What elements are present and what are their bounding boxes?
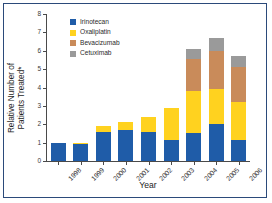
bar-2004[interactable]	[186, 49, 201, 161]
bar-segment-oxaliplatin-2000[interactable]	[96, 126, 111, 131]
bar-segment-irinotecan-2003[interactable]	[164, 140, 179, 161]
x-axis-tick	[194, 161, 195, 165]
legend-item-oxaliplatin[interactable]: Oxaliplatin	[70, 28, 120, 39]
bar-1998[interactable]	[51, 143, 66, 161]
bar-2005[interactable]	[209, 38, 224, 161]
legend-label: Oxaliplatin	[80, 29, 111, 36]
y-axis-tick-label: 8	[37, 11, 41, 18]
figure-border: Relative Number of Patients Treated* 012…	[3, 3, 267, 198]
x-axis-tick	[81, 161, 82, 165]
y-axis-tick-label: 2	[37, 121, 41, 128]
bar-segment-irinotecan-2000[interactable]	[96, 132, 111, 161]
bar-segment-irinotecan-2002[interactable]	[141, 132, 156, 161]
bar-2001[interactable]	[118, 122, 133, 161]
bar-1999[interactable]	[73, 143, 88, 161]
x-axis-tick	[149, 161, 150, 165]
x-axis-tick	[58, 161, 59, 165]
bar-segment-cetuximab-2006[interactable]	[231, 56, 246, 67]
legend-label: Irinotecan	[80, 19, 109, 26]
bar-segment-irinotecan-2001[interactable]	[118, 130, 133, 161]
bar-2000[interactable]	[96, 126, 111, 161]
chart-figure: Relative Number of Patients Treated* 012…	[4, 4, 268, 199]
x-axis-tick	[126, 161, 127, 165]
bar-segment-oxaliplatin-2003[interactable]	[164, 108, 179, 140]
bar-segment-oxaliplatin-1999[interactable]	[73, 143, 88, 145]
bar-segment-cetuximab-2005[interactable]	[209, 38, 224, 51]
legend-label: Bevacizumab	[80, 40, 120, 47]
y-axis-title-line2: Patients Treated*	[17, 67, 26, 130]
y-axis-title: Relative Number of Patients Treated*	[7, 28, 27, 168]
bar-2002[interactable]	[141, 117, 156, 161]
y-axis-tick-label: 6	[37, 48, 41, 55]
y-axis-tick-label: 0	[37, 158, 41, 165]
legend-swatch-cetuximab	[70, 51, 76, 57]
bar-segment-cetuximab-2004[interactable]	[186, 49, 201, 59]
x-axis-tick	[171, 161, 172, 165]
x-axis-title: Year	[46, 180, 250, 190]
y-axis-tick-label: 7	[37, 29, 41, 36]
bar-segment-bevacizumab-2005[interactable]	[209, 51, 224, 90]
bar-2006[interactable]	[231, 56, 246, 161]
bar-segment-irinotecan-2005[interactable]	[209, 124, 224, 161]
y-axis-tick-label: 4	[37, 84, 41, 91]
bar-segment-oxaliplatin-2006[interactable]	[231, 102, 246, 140]
legend-item-cetuximab[interactable]: Cetuximab	[70, 49, 120, 60]
bar-segment-oxaliplatin-2005[interactable]	[209, 89, 224, 124]
y-axis-tick-label: 1	[37, 139, 41, 146]
bar-segment-irinotecan-1998[interactable]	[51, 143, 66, 161]
legend-swatch-irinotecan	[70, 19, 76, 25]
bar-2003[interactable]	[164, 108, 179, 161]
bar-segment-irinotecan-2004[interactable]	[186, 133, 201, 161]
legend-swatch-bevacizumab	[70, 40, 76, 46]
legend-label: Cetuximab	[80, 50, 112, 57]
x-axis-tick-label-2006: 2006	[248, 167, 264, 183]
y-axis-tick-label: 5	[37, 66, 41, 73]
y-axis-title-container: Relative Number of Patients Treated*	[6, 18, 28, 158]
legend: IrinotecanOxaliplatinBevacizumabCetuxima…	[70, 17, 120, 59]
bar-segment-oxaliplatin-2002[interactable]	[141, 117, 156, 132]
bar-segment-oxaliplatin-2004[interactable]	[186, 91, 201, 133]
x-axis-tick	[216, 161, 217, 165]
bar-segment-bevacizumab-2006[interactable]	[231, 67, 246, 102]
y-axis-tick-label: 3	[37, 103, 41, 110]
y-axis-tick	[43, 161, 47, 162]
legend-swatch-oxaliplatin	[70, 30, 76, 36]
y-axis-title-line1: Relative Number of	[7, 63, 16, 133]
x-axis-tick	[103, 161, 104, 165]
bar-segment-oxaliplatin-2001[interactable]	[118, 122, 133, 129]
bar-segment-bevacizumab-2004[interactable]	[186, 59, 201, 91]
bar-segment-irinotecan-1999[interactable]	[73, 144, 88, 161]
legend-item-bevacizumab[interactable]: Bevacizumab	[70, 38, 120, 49]
x-axis-tick	[239, 161, 240, 165]
legend-item-irinotecan[interactable]: Irinotecan	[70, 17, 120, 28]
bar-segment-irinotecan-2006[interactable]	[231, 140, 246, 161]
